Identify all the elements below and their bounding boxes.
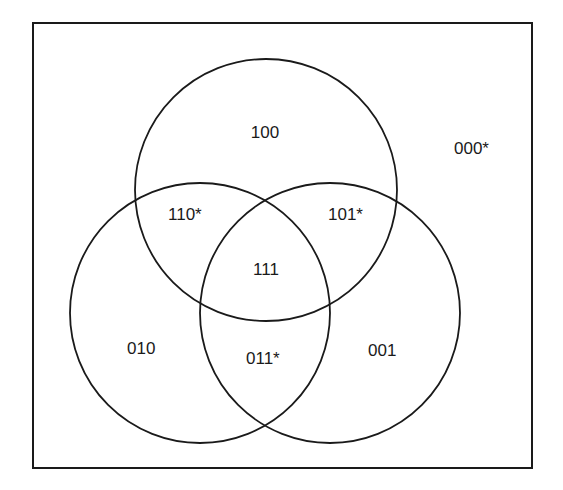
universe-box bbox=[33, 23, 532, 468]
region-011: 011* bbox=[246, 349, 280, 368]
region-001: 001 bbox=[368, 341, 396, 360]
region-010: 010 bbox=[127, 339, 155, 358]
venn-diagram: 100 000* 110* 101* 111 010 011* 001 bbox=[0, 0, 563, 490]
top-circle bbox=[135, 59, 397, 321]
region-000: 000* bbox=[454, 139, 489, 158]
region-101: 101* bbox=[328, 205, 363, 224]
region-100: 100 bbox=[251, 123, 279, 142]
region-111: 111 bbox=[253, 260, 279, 279]
region-110: 110* bbox=[168, 205, 202, 224]
